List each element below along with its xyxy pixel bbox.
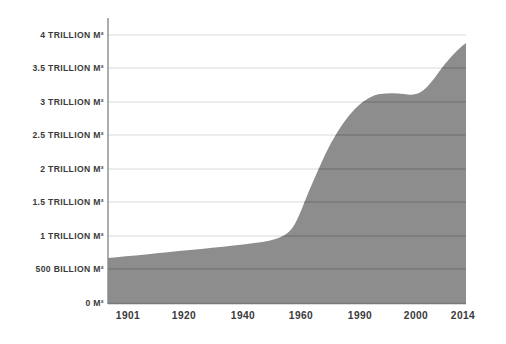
x-tick-label-1920: 1920 (172, 311, 196, 321)
chart-container: 4 TRILLION M² 3.5 TRILLION M² 3 TRILLION… (0, 0, 506, 344)
x-tick-label-1940: 1940 (231, 311, 255, 321)
x-tick-label-1990: 1990 (348, 311, 372, 321)
x-tick-label-2014: 2014 (451, 311, 475, 321)
x-axis-labels: 1901 1920 1940 1960 1990 2000 2014 (0, 0, 506, 344)
x-tick-label-2000: 2000 (404, 311, 428, 321)
x-tick-label-1901: 1901 (116, 311, 140, 321)
x-tick-label-1960: 1960 (289, 311, 313, 321)
